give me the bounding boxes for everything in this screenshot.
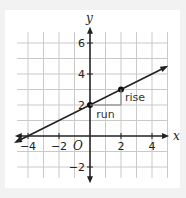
y-tick-label: −2 bbox=[69, 161, 85, 174]
x-tick-label: 4 bbox=[149, 140, 156, 153]
x-tick-label: −2 bbox=[51, 140, 67, 153]
graph-panel: −4−224−2246Oxy runrise bbox=[5, 10, 180, 188]
coordinate-plane: −4−224−2246Oxy runrise bbox=[5, 10, 180, 188]
origin-label: O bbox=[73, 139, 83, 153]
y-axis-label: y bbox=[85, 11, 93, 25]
x-tick-label: 2 bbox=[118, 140, 125, 153]
y-tick-label: 4 bbox=[78, 68, 85, 81]
run-label: run bbox=[96, 108, 114, 121]
rise-label: rise bbox=[125, 91, 145, 104]
x-axis-label: x bbox=[173, 129, 180, 143]
y-tick-label: 6 bbox=[78, 37, 85, 50]
